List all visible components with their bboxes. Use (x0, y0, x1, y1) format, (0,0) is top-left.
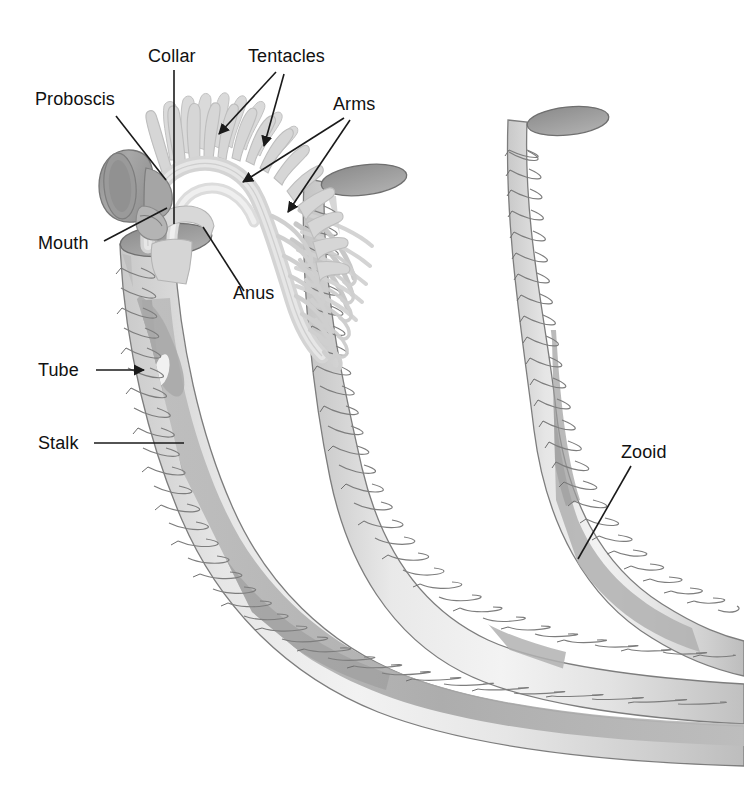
label-zooid: Zooid (621, 442, 667, 462)
label-tentacles: Tentacles (248, 46, 325, 66)
label-anus: Anus (233, 283, 274, 303)
label-proboscis: Proboscis (35, 89, 115, 109)
label-mouth: Mouth (38, 233, 89, 253)
label-arms: Arms (333, 94, 375, 114)
zooid-1-trunk (151, 239, 192, 284)
label-tube: Tube (38, 360, 79, 380)
label-collar: Collar (148, 46, 196, 66)
anatomy-diagram: Proboscis Collar Tentacles Arms Mouth An… (0, 0, 744, 793)
label-stalk: Stalk (38, 433, 79, 453)
figure-root: Proboscis Collar Tentacles Arms Mouth An… (0, 0, 744, 793)
